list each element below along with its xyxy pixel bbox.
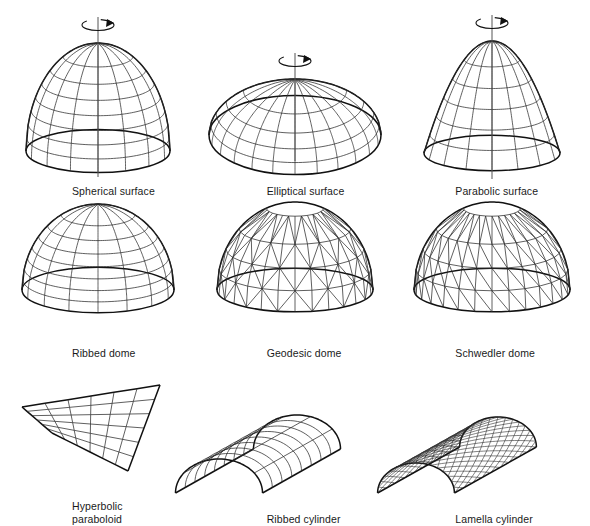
parabolic-surface-illustration bbox=[393, 0, 590, 173]
figure-cell-lamella-cylinder: Lamella cylinder bbox=[393, 360, 590, 526]
lamella-cylinder-illustration bbox=[393, 360, 590, 499]
schwedler-dome-caption: Schwedler dome bbox=[393, 338, 590, 360]
figure-cell-hyperbolic-paraboloid: Hyperbolic paraboloid bbox=[0, 360, 197, 526]
ribbed-cylinder-illustration bbox=[197, 360, 394, 499]
figure-cell-ribbed-cylinder: Ribbed cylinder bbox=[197, 360, 394, 526]
hyperbolic-paraboloid-caption: Hyperbolic paraboloid bbox=[0, 486, 197, 526]
lamella-cylinder-caption: Lamella cylinder bbox=[393, 499, 590, 526]
ribbed-dome-caption: Ribbed dome bbox=[0, 338, 197, 360]
structural-forms-figure: Spherical surfaceElliptical surfaceParab… bbox=[0, 0, 590, 526]
figure-cell-geodesic-dome: Geodesic dome bbox=[197, 198, 394, 360]
spherical-surface-illustration bbox=[0, 0, 197, 173]
geodesic-dome-caption: Geodesic dome bbox=[197, 338, 394, 360]
figure-cell-ribbed-dome: Ribbed dome bbox=[0, 198, 197, 360]
geodesic-dome-illustration bbox=[197, 198, 394, 338]
ribbed-cylinder-caption: Ribbed cylinder bbox=[197, 499, 394, 526]
ribbed-dome-illustration bbox=[0, 198, 197, 338]
figure-cell-schwedler-dome: Schwedler dome bbox=[393, 198, 590, 360]
elliptical-surface-illustration bbox=[197, 0, 394, 173]
hyperbolic-paraboloid-illustration bbox=[0, 360, 197, 486]
schwedler-dome-illustration bbox=[393, 198, 590, 338]
